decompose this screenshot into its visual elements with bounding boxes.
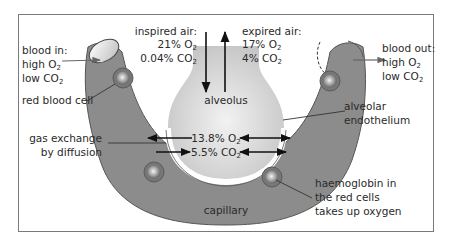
- svg-text:4% CO2: 4% CO2: [242, 52, 282, 66]
- svg-text:endothelium: endothelium: [344, 114, 410, 126]
- gas-exchange-diagram: blood in: high O2 low CO2 red blood cell…: [0, 0, 451, 243]
- alveolus: [166, 46, 286, 186]
- label-gas-exchange: gas exchange by diffusion: [29, 132, 102, 158]
- svg-text:21% O2: 21% O2: [158, 38, 197, 52]
- svg-text:inspired air:: inspired air:: [135, 25, 197, 37]
- label-capillary: capillary: [204, 204, 249, 216]
- label-blood-in: blood in: high O2 low CO2: [22, 44, 68, 86]
- svg-text:high O2: high O2: [22, 58, 61, 72]
- label-expired-air: expired air: 17% O2 4% CO2: [242, 25, 302, 66]
- label-alveolar-o2: 13.8% O2: [191, 132, 240, 146]
- svg-text:alveolar: alveolar: [344, 100, 387, 112]
- label-inspired-air: inspired air: 21% O2 0.04% CO2: [135, 25, 197, 66]
- blood-in-title: blood in:: [22, 44, 68, 56]
- svg-text:high O2: high O2: [382, 56, 421, 70]
- svg-text:by diffusion: by diffusion: [41, 146, 102, 158]
- svg-text:takes up oxygen: takes up oxygen: [315, 205, 402, 217]
- svg-text:haemoglobin in: haemoglobin in: [315, 177, 396, 189]
- label-alveolus: alveolus: [204, 94, 248, 106]
- svg-text:blood out:: blood out:: [382, 42, 435, 54]
- label-blood-out: blood out: high O2 low CO2: [382, 42, 435, 84]
- label-alveolar-co2: 5.5% CO2: [191, 146, 241, 160]
- svg-text:low CO2: low CO2: [382, 70, 423, 84]
- svg-text:gas exchange: gas exchange: [29, 132, 102, 144]
- label-haemoglobin: haemoglobin in the red cells takes up ox…: [315, 177, 402, 217]
- svg-text:0.04% CO2: 0.04% CO2: [140, 52, 197, 66]
- svg-text:17% O2: 17% O2: [242, 38, 281, 52]
- label-red-blood-cell: red blood cell: [22, 94, 93, 106]
- svg-text:the red cells: the red cells: [315, 191, 380, 203]
- svg-text:low CO2: low CO2: [22, 72, 63, 86]
- svg-text:expired air:: expired air:: [242, 25, 302, 37]
